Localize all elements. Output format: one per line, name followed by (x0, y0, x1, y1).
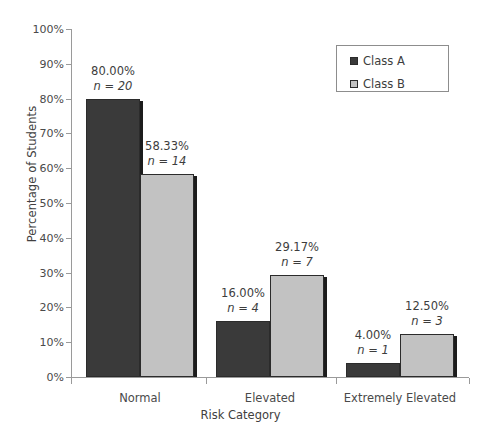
legend-label-class-b: Class B (363, 77, 405, 91)
bar-class-b-normal (140, 174, 194, 377)
y-tick-label: 50% (18, 197, 64, 210)
data-label-count: n = 3 (367, 314, 481, 329)
y-tick-label: 10% (18, 336, 64, 349)
legend-swatch-icon-class-b (350, 80, 358, 88)
data-label: 4.00%n = 1 (313, 328, 433, 358)
y-tick-mark (66, 342, 72, 343)
data-label-percent: 80.00% (91, 64, 135, 78)
chart-legend: Class A Class B (336, 45, 449, 92)
bar-chart: Percentage of Students 0%10%20%30%40%50%… (0, 0, 481, 436)
y-tick-mark (66, 238, 72, 239)
y-tick-mark (66, 168, 72, 169)
x-axis-line (71, 377, 469, 378)
data-label-percent: 29.17% (275, 240, 319, 254)
y-tick-label: 60% (18, 162, 64, 175)
data-label: 80.00%n = 20 (53, 64, 173, 94)
data-label: 16.00%n = 4 (183, 286, 303, 316)
data-label-count: n = 7 (237, 255, 357, 270)
data-label-percent: 58.33% (145, 139, 189, 153)
bar-class-a-elevated (216, 321, 270, 377)
x-tick-mark (336, 378, 337, 384)
x-tick-mark (71, 378, 72, 384)
y-tick-label: 20% (18, 301, 64, 314)
y-tick-mark (66, 133, 72, 134)
y-tick-mark (66, 203, 72, 204)
y-tick-mark (66, 29, 72, 30)
y-tick-label: 0% (18, 371, 64, 384)
y-tick-label: 30% (18, 266, 64, 279)
data-label-percent: 12.50% (405, 299, 449, 313)
legend-swatch-icon-class-a (350, 57, 358, 65)
bar-class-a-extremely-elevated (346, 363, 400, 377)
y-tick-mark (66, 273, 72, 274)
data-label-percent: 16.00% (221, 286, 265, 300)
x-axis-title: Risk Category (0, 408, 481, 422)
data-label-count: n = 4 (183, 301, 303, 316)
data-label: 29.17%n = 7 (237, 240, 357, 270)
data-label-count: n = 20 (53, 79, 173, 94)
legend-item-class-b: Class B (350, 76, 448, 92)
data-label: 58.33%n = 14 (107, 139, 227, 169)
x-tick-mark (469, 378, 470, 384)
x-tick-mark (206, 378, 207, 384)
x-category-label: Extremely Elevated (320, 391, 480, 405)
y-tick-mark (66, 99, 72, 100)
y-tick-label: 40% (18, 231, 64, 244)
y-tick-label: 100% (18, 23, 64, 36)
y-tick-mark (66, 307, 72, 308)
legend-label-class-a: Class A (363, 54, 405, 68)
data-label-count: n = 1 (313, 343, 433, 358)
data-label-percent: 4.00% (355, 328, 392, 342)
data-label-count: n = 14 (107, 154, 227, 169)
legend-item-class-a: Class A (350, 53, 448, 69)
y-tick-label: 80% (18, 92, 64, 105)
y-tick-label: 70% (18, 127, 64, 140)
data-label: 12.50%n = 3 (367, 299, 481, 329)
